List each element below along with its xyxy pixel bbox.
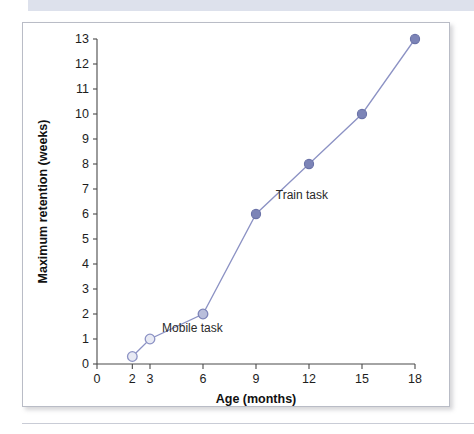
y-axis-tick-label: 11 xyxy=(76,82,89,96)
figure-frame: 01234567891011121302369121518Age (months… xyxy=(22,22,450,407)
y-axis-tick-label: 6 xyxy=(82,207,89,221)
data-point-marker[interactable] xyxy=(128,352,138,362)
x-axis-tick-label: 12 xyxy=(302,372,316,386)
series-annotation-label: Train task xyxy=(276,188,329,202)
data-point-marker[interactable] xyxy=(198,309,208,319)
x-axis-tick-label: 0 xyxy=(94,372,101,386)
y-axis-tick-label: 5 xyxy=(82,232,89,246)
y-axis-tick-label: 10 xyxy=(75,107,89,121)
x-axis-tick-label: 9 xyxy=(253,372,260,386)
data-point-marker[interactable] xyxy=(357,109,366,118)
y-axis-title: Maximum retention (weeks) xyxy=(36,120,50,284)
series-annotation-label: Mobile task xyxy=(162,321,224,335)
horizontal-rule xyxy=(22,423,474,424)
x-axis-tick-label: 18 xyxy=(408,372,422,386)
y-axis-tick-label: 8 xyxy=(82,157,89,171)
x-axis-title: Age (months) xyxy=(216,392,297,406)
data-point-marker[interactable] xyxy=(410,34,419,43)
line-chart-plot: 01234567891011121302369121518Age (months… xyxy=(23,23,451,408)
x-axis-tick-label: 3 xyxy=(147,372,154,386)
y-axis-tick-label: 2 xyxy=(82,307,89,321)
y-axis-tick-label: 1 xyxy=(82,332,89,346)
y-axis-tick-label: 4 xyxy=(82,257,89,271)
y-axis-tick-label: 9 xyxy=(82,132,89,146)
y-axis-tick-label: 7 xyxy=(82,182,89,196)
y-axis-tick-label: 13 xyxy=(75,32,89,46)
y-axis-tick-label: 0 xyxy=(82,357,89,371)
y-axis-tick-label: 12 xyxy=(75,57,89,71)
decorative-top-band xyxy=(28,0,474,11)
x-axis-tick-label: 2 xyxy=(129,372,136,386)
x-axis-tick-label: 15 xyxy=(355,372,369,386)
data-point-marker[interactable] xyxy=(304,159,313,168)
data-point-marker[interactable] xyxy=(145,334,155,344)
y-axis-tick-label: 3 xyxy=(82,282,89,296)
x-axis-tick-label: 6 xyxy=(200,372,207,386)
data-point-marker[interactable] xyxy=(251,209,260,218)
series-line xyxy=(132,39,415,357)
